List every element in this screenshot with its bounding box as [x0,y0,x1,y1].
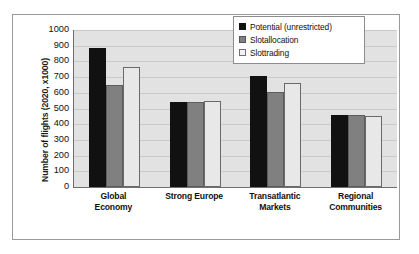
y-axis-tick-label: 400 [35,119,69,128]
x-axis-tick-label: GlobalEconomy [73,191,154,213]
y-axis-tick-label: 200 [35,151,69,160]
bar [106,85,123,187]
y-axis-tick-label: 800 [35,56,69,65]
y-axis-tick-label: 300 [35,135,69,144]
bar-group [74,30,155,187]
legend-item-label: Slottrading [250,48,289,58]
legend-item-label: Potential (unrestricted) [250,22,332,32]
x-axis-tick-label-line: Communities [315,202,396,213]
y-axis-tick-label: 100 [35,166,69,175]
legend-item: Slotallocation [239,33,360,46]
y-axis-tick-label: 500 [35,104,69,113]
y-axis-tick-label: 900 [35,41,69,50]
y-axis-tick-label: 700 [35,72,69,81]
bar [187,102,204,187]
x-axis-tick-label: Strong Europe [154,191,235,213]
legend-swatch-icon [239,36,246,43]
bar [170,102,187,187]
bar [250,76,267,187]
x-axis-tick-label: TransatlanticMarkets [235,191,316,213]
y-axis-tick-labels: 10009008007006005004003002001000 [35,24,69,188]
x-axis-tick-label: RegionalCommunities [315,191,396,213]
x-axis-tick-label-line: Markets [235,202,316,213]
legend-item: Slottrading [239,46,360,59]
chart-figure: Number of flights (2020, x1000) 10009008… [0,0,419,254]
bar [284,83,301,187]
bar [204,101,221,187]
y-axis-tick-label: 0 [35,182,69,191]
x-axis-tick-label-line: Strong Europe [154,191,235,202]
x-axis-tick-label-line: Global [73,191,154,202]
x-axis-tick-label-line: Economy [73,202,154,213]
bar [365,116,382,187]
legend-item-label: Slotallocation [250,35,298,45]
y-axis-tick-label: 600 [35,88,69,97]
bar [267,92,284,187]
legend-swatch-icon [239,49,246,56]
bar [89,48,106,187]
y-axis-tick-label: 1000 [35,25,69,34]
bar [348,115,365,187]
chart-legend: Potential (unrestricted)SlotallocationSl… [233,16,365,64]
bar [331,115,348,187]
x-axis-tick-label-line: Transatlantic [235,191,316,202]
x-axis-tick-labels: GlobalEconomyStrong EuropeTransatlanticM… [73,191,396,213]
bar-group [155,30,236,187]
legend-swatch-icon [239,23,246,30]
bar [123,67,140,187]
chart-frame: Number of flights (2020, x1000) 10009008… [12,14,400,240]
x-axis-tick-label-line: Regional [315,191,396,202]
legend-item: Potential (unrestricted) [239,20,360,33]
